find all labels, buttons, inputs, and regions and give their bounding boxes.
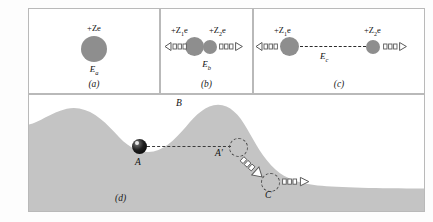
panel-b: +Z1e +Z2e Eb (b) bbox=[160, 8, 253, 94]
panel-b-energy-subscript: b bbox=[208, 64, 211, 71]
panel-b-energy-label: Eb bbox=[202, 59, 211, 71]
panel-b-arrow-left-icon bbox=[165, 41, 187, 52]
panel-c-fragment-small bbox=[366, 40, 380, 54]
panel-c-caption: (c) bbox=[254, 79, 424, 89]
panel-b-charge-right: +Z2e bbox=[209, 25, 226, 37]
panel-d: B A A' C (d) bbox=[28, 94, 425, 212]
panel-a-charge-label: +Ze bbox=[87, 23, 101, 33]
panel-b-arrow-right-icon bbox=[219, 41, 243, 52]
panel-c-charge-left: +Z1e bbox=[274, 25, 291, 37]
panel-c-arrow-left-icon bbox=[256, 41, 278, 52]
panel-b-charge-right-tail: e bbox=[222, 25, 226, 35]
panel-c-fragment-large bbox=[280, 37, 299, 56]
panel-a-caption: (a) bbox=[29, 79, 159, 89]
panel-b-charge-right-sym: +Z bbox=[209, 25, 219, 35]
panel-c-separation-dashline bbox=[300, 46, 366, 47]
panel-d-caption: (d) bbox=[115, 193, 126, 203]
panel-c-charge-right-tail: e bbox=[377, 25, 381, 35]
potential-energy-terrain bbox=[29, 95, 424, 211]
panel-c-energy-subscript: c bbox=[326, 56, 329, 63]
panel-c-charge-left-tail: e bbox=[287, 25, 291, 35]
point-label-a: A bbox=[135, 157, 141, 167]
panel-b-fragment-small bbox=[203, 40, 217, 54]
motion-arrow-c-icon bbox=[282, 176, 310, 187]
figure-container: +Ze Ea (a) +Z1e +Z2e Eb bbox=[0, 0, 433, 222]
point-label-a-prime: A' bbox=[215, 148, 223, 158]
panel-b-charge-left-sym: +Z bbox=[171, 25, 181, 35]
panel-a-energy-subscript: a bbox=[95, 69, 98, 76]
panel-c-charge-right-sym: +Z bbox=[364, 25, 374, 35]
panel-b-charge-left: +Z1e bbox=[171, 25, 188, 37]
panel-a-nucleus bbox=[81, 36, 107, 62]
panel-c-arrow-right-icon bbox=[383, 41, 407, 52]
ball-at-point-a bbox=[132, 139, 147, 154]
panel-b-fragment-large bbox=[185, 37, 204, 56]
panel-c-energy-label: Ec bbox=[320, 51, 328, 63]
panel-c: +Z1e +Z2e Ec (c) bbox=[253, 8, 425, 94]
point-label-b: B bbox=[176, 98, 182, 108]
panel-a: +Ze Ea (a) bbox=[28, 8, 160, 94]
panel-b-caption: (b) bbox=[161, 79, 252, 89]
panel-c-charge-right: +Z2e bbox=[364, 25, 381, 37]
point-label-c: C bbox=[265, 190, 271, 200]
trajectory-dashline-a-to-aprime bbox=[147, 146, 231, 147]
panel-c-charge-left-sym: +Z bbox=[274, 25, 284, 35]
panel-a-energy-label: Ea bbox=[90, 64, 99, 76]
panel-b-charge-left-tail: e bbox=[184, 25, 188, 35]
